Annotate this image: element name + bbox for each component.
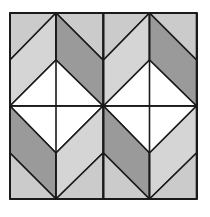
quilt-block: [10, 13, 197, 199]
quilt-diagram: [0, 0, 210, 217]
